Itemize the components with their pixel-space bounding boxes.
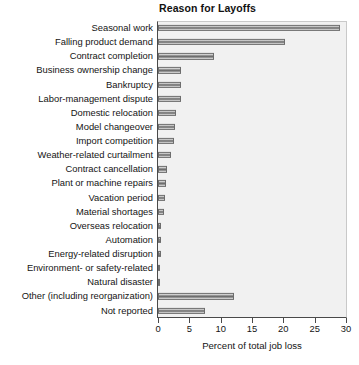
bar: [158, 293, 234, 299]
bar-row: Contract cancellation: [0, 162, 359, 176]
bar: [158, 110, 176, 116]
bar-track: [158, 63, 346, 77]
bar-track: [158, 92, 346, 106]
x-axis-title: Percent of total job loss: [157, 340, 347, 351]
bar: [158, 194, 165, 200]
bar-row: Business ownership change: [0, 63, 359, 77]
bar-category-label: Material shortages: [76, 207, 153, 216]
bar-category-label: Environment- or safety-related: [27, 263, 153, 272]
bar-category-label: Not reported: [101, 306, 153, 315]
bar-track: [158, 134, 346, 148]
bar: [158, 152, 171, 158]
bar-category-label: Overseas relocation: [70, 221, 153, 230]
bar-category-label: Bankruptcy: [106, 80, 153, 89]
bar: [158, 25, 340, 31]
bar-row: Domestic relocation: [0, 106, 359, 120]
bar: [158, 223, 161, 229]
bar-category-label: Seasonal work: [92, 23, 154, 32]
bar-row: Falling product demand: [0, 35, 359, 49]
bar-category-label: Import competition: [76, 136, 153, 145]
bar-row: Vacation period: [0, 191, 359, 205]
x-tick-label: 15: [247, 323, 257, 334]
bar-track: [158, 35, 346, 49]
x-tick-label: 25: [309, 323, 319, 334]
bar-track: [158, 106, 346, 120]
bar-track: [158, 176, 346, 190]
bar-row: Natural disaster: [0, 275, 359, 289]
bar-category-label: Vacation period: [89, 193, 153, 202]
bar: [158, 209, 164, 215]
bar-category-label: Energy-related disruption: [48, 249, 153, 258]
bar-track: [158, 120, 346, 134]
bar-category-label: Business ownership change: [36, 66, 153, 75]
bar-track: [158, 247, 346, 261]
chart-title: Reason for Layoffs: [0, 2, 359, 14]
x-tick-label: 20: [278, 323, 288, 334]
bar-category-label: Domestic relocation: [71, 108, 153, 117]
bar-track: [158, 304, 346, 318]
bar: [158, 237, 161, 243]
bar-category-label: Weather-related curtailment: [37, 150, 153, 159]
bar-category-label: Falling product demand: [55, 37, 153, 46]
bar: [158, 279, 160, 285]
bar-row: Contract completion: [0, 49, 359, 63]
bar: [158, 138, 174, 144]
bar-row: Seasonal work: [0, 21, 359, 35]
bar-row: Bankruptcy: [0, 78, 359, 92]
bar-row: Weather-related curtailment: [0, 148, 359, 162]
bar-row: Energy-related disruption: [0, 247, 359, 261]
bar-category-label: Labor-management dispute: [38, 94, 153, 103]
bar-track: [158, 205, 346, 219]
bar: [158, 96, 181, 102]
bar-track: [158, 21, 346, 35]
bar-track: [158, 148, 346, 162]
bar-row: Other (including reorganization): [0, 289, 359, 303]
bar-track: [158, 219, 346, 233]
bar-category-label: Plant or machine repairs: [51, 179, 153, 188]
bar-track: [158, 289, 346, 303]
bar-row: Labor-management dispute: [0, 92, 359, 106]
bar-track: [158, 49, 346, 63]
x-axis-tick-labels: 051015202530: [157, 323, 347, 337]
x-tick-label: 30: [341, 323, 351, 334]
bar-row: Plant or machine repairs: [0, 176, 359, 190]
bar-track: [158, 162, 346, 176]
x-tick-label: 10: [215, 323, 225, 334]
bar-category-label: Contract completion: [70, 52, 153, 61]
bar: [158, 180, 166, 186]
bar-category-label: Model changeover: [76, 122, 153, 131]
bar-category-label: Contract cancellation: [65, 165, 153, 174]
bar-category-label: Other (including reorganization): [22, 292, 153, 301]
bar-row: Overseas relocation: [0, 219, 359, 233]
bar-row: Not reported: [0, 304, 359, 318]
bar-track: [158, 233, 346, 247]
chart-figure: Reason for Layoffs Seasonal workFalling …: [0, 0, 359, 365]
bar-row: Import competition: [0, 134, 359, 148]
bar-category-label: Natural disaster: [87, 278, 153, 287]
bar-row: Material shortages: [0, 205, 359, 219]
bar-rows: Seasonal workFalling product demandContr…: [0, 21, 359, 318]
bar: [158, 53, 214, 59]
bar: [158, 265, 160, 271]
bar-track: [158, 78, 346, 92]
x-tick-label: 5: [187, 323, 192, 334]
bar: [158, 67, 181, 73]
bar-category-label: Automation: [106, 235, 153, 244]
bar: [158, 39, 285, 45]
bar: [158, 81, 181, 87]
bar-track: [158, 261, 346, 275]
bar-track: [158, 275, 346, 289]
bar-row: Automation: [0, 233, 359, 247]
bar: [158, 124, 175, 130]
bar: [158, 251, 161, 257]
x-tick-label: 0: [155, 323, 160, 334]
bar-row: Model changeover: [0, 120, 359, 134]
bar: [158, 166, 167, 172]
bar-track: [158, 191, 346, 205]
bar-row: Environment- or safety-related: [0, 261, 359, 275]
bar: [158, 307, 205, 313]
